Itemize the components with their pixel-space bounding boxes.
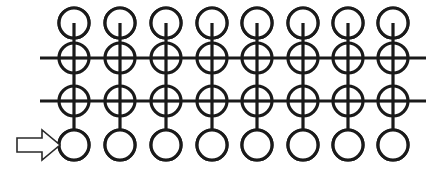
open-circle-outline-c7-r4[interactable]	[333, 130, 363, 160]
diagram-canvas	[0, 0, 440, 173]
annotation-group	[17, 130, 60, 160]
open-circle-outline-c4-r4[interactable]	[197, 130, 227, 160]
open-circle-outline-c3-r4[interactable]	[151, 130, 181, 160]
open-circle-outline-c1-r4[interactable]	[59, 130, 89, 160]
open-circle-outline-c2-r4[interactable]	[105, 130, 135, 160]
node-group	[59, 8, 408, 160]
input-pointer-arrow[interactable]	[17, 130, 60, 160]
horizontal-wire-group	[40, 58, 426, 101]
open-circle-outline-c8-r4[interactable]	[378, 130, 408, 160]
open-circle-outline-c6-r4[interactable]	[288, 130, 318, 160]
lattice-diagram	[0, 0, 440, 173]
open-circle-outline-c5-r4[interactable]	[242, 130, 272, 160]
